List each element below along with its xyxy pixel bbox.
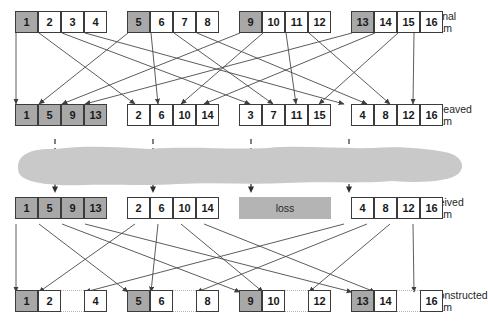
packet-cell: 5	[38, 104, 61, 126]
packet-cell: 16	[420, 104, 443, 126]
packet-cell: 9	[239, 11, 262, 33]
packet-cell: 16	[420, 197, 443, 219]
packet-cell: 3	[61, 11, 84, 33]
packet-cell: 5	[127, 290, 150, 312]
packet-cell: 4	[351, 197, 374, 219]
packet-cell: 10	[262, 11, 285, 33]
packet-cell: 9	[239, 290, 262, 312]
packet-cell: 2	[127, 197, 150, 219]
packet-cell: 14	[374, 11, 397, 33]
packet-cell: 2	[38, 290, 61, 312]
packet-cell: 6	[150, 104, 173, 126]
loss-block: loss	[239, 197, 331, 219]
packet-cell: 2	[127, 104, 150, 126]
packet-cell: 12	[308, 290, 331, 312]
packet-cell: 7	[173, 11, 196, 33]
packet-cell: 1	[15, 11, 38, 33]
packet-cell: 11	[285, 104, 308, 126]
packet-cell: 8	[196, 11, 219, 33]
packet-cell: 5	[127, 11, 150, 33]
packet-cell: 13	[84, 197, 107, 219]
packet-cell: 11	[285, 11, 308, 33]
packet-cell: 12	[308, 11, 331, 33]
packet-cell: 16	[420, 290, 443, 312]
missing-packet-gap	[61, 290, 84, 312]
packet-cell: 4	[351, 104, 374, 126]
missing-packet-gap	[397, 290, 420, 312]
packet-cell: 14	[374, 290, 397, 312]
packet-cell: 12	[397, 197, 420, 219]
packet-cell: 1	[15, 197, 38, 219]
packet-cell: 9	[61, 197, 84, 219]
packet-cell: 13	[351, 290, 374, 312]
packet-cell: 14	[196, 197, 219, 219]
deinterleave-mapping-lines	[16, 224, 414, 292]
packet-cell: 1	[15, 290, 38, 312]
packet-cell: 9	[61, 104, 84, 126]
packet-cell: 6	[150, 197, 173, 219]
interleave-mapping-lines	[16, 33, 414, 104]
missing-packet-gap	[285, 290, 308, 312]
packet-cell: 1	[15, 104, 38, 126]
packet-cell: 2	[38, 11, 61, 33]
packet-cell: 13	[84, 104, 107, 126]
packet-cell: 10	[262, 290, 285, 312]
packet-cell: 6	[150, 290, 173, 312]
packet-cell: 4	[84, 290, 107, 312]
packet-cell: 13	[351, 11, 374, 33]
missing-packet-gap	[173, 290, 196, 312]
packet-cell: 8	[196, 290, 219, 312]
network-cloud	[0, 143, 475, 191]
packet-cell: 4	[84, 11, 107, 33]
packet-cell: 12	[397, 104, 420, 126]
packet-cell: 8	[374, 104, 397, 126]
packet-cell: 15	[308, 104, 331, 126]
packet-cell: 10	[173, 197, 196, 219]
packet-cell: 14	[196, 104, 219, 126]
packet-cell: 6	[150, 11, 173, 33]
packet-cell: 3	[239, 104, 262, 126]
packet-cell: 7	[262, 104, 285, 126]
packet-cell: 5	[38, 197, 61, 219]
packet-cell: 15	[397, 11, 420, 33]
packet-cell: 10	[173, 104, 196, 126]
packet-cell: 8	[374, 197, 397, 219]
packet-cell: 16	[420, 11, 443, 33]
